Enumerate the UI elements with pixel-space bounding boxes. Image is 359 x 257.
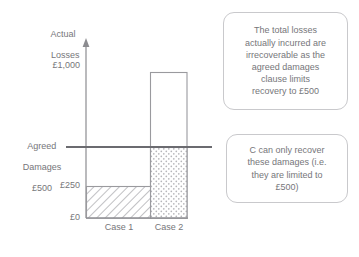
x-tick-label-case2: Case 2 (138, 222, 200, 233)
total-losses-note-line-2: actually incurred are (245, 37, 326, 49)
agreed-damages-label: Agreed Damages £500 (6, 130, 68, 204)
y-tick-label-1000: £1,000 (18, 60, 80, 71)
bar-case2-recoverable (151, 148, 188, 219)
recoverable-damages-note-line-2: these damages (i.e. (247, 156, 326, 168)
total-losses-note-line-1: The total losses (245, 24, 326, 36)
recoverable-damages-note-line-3: they are limited to (247, 169, 326, 181)
total-losses-note-line-6: recovery to £500 (245, 85, 326, 97)
recoverable-damages-note: C can only recover these damages (i.e. t… (226, 134, 348, 203)
total-losses-note-line-4: agreed damages (245, 61, 326, 73)
recoverable-damages-note-line-1: C can only recover (247, 144, 326, 156)
y-axis-title-line2: Losses (51, 50, 80, 60)
bar-case1 (87, 187, 151, 219)
recoverable-damages-note-line-4: £500) (247, 181, 326, 193)
agreed-damages-label-line2: Damages (23, 162, 62, 172)
agreed-damages-label-line3: £500 (32, 183, 52, 193)
y-tick-label-0: £0 (18, 212, 80, 223)
diagram-canvas: Actual Losses £1,000 £250 £0 Agreed Dama… (0, 0, 359, 257)
total-losses-note: The total losses actually incurred are i… (223, 12, 348, 110)
agreed-damages-label-line1: Agreed (27, 141, 56, 151)
y-axis-title-line1: Actual (51, 29, 76, 39)
total-losses-note-line-3: irrecoverable as the (245, 49, 326, 61)
total-losses-note-line-5: clause limits (245, 73, 326, 85)
